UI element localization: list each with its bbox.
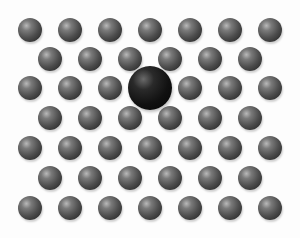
lattice-atom	[178, 18, 202, 42]
lattice-atom	[218, 18, 242, 42]
lattice-atom	[78, 47, 102, 71]
lattice-atom	[98, 76, 122, 100]
lattice-atom	[58, 196, 82, 220]
lattice-atom	[238, 47, 262, 71]
lattice-atom	[118, 47, 142, 71]
lattice-atom	[238, 166, 262, 190]
crystal-lattice-illustration	[0, 0, 300, 238]
lattice-atom	[138, 18, 162, 42]
lattice-atom	[18, 76, 42, 100]
lattice-atom	[218, 196, 242, 220]
lattice-atom	[98, 18, 122, 42]
lattice-atom	[218, 136, 242, 160]
lattice-atom	[238, 106, 262, 130]
lattice-atom	[98, 196, 122, 220]
lattice-atom	[198, 166, 222, 190]
defect-atom	[128, 66, 172, 110]
lattice-atom	[198, 47, 222, 71]
lattice-atom	[218, 76, 242, 100]
lattice-atom	[98, 136, 122, 160]
lattice-atom	[158, 106, 182, 130]
lattice-atom	[118, 106, 142, 130]
lattice-atom	[58, 18, 82, 42]
lattice-atom	[178, 196, 202, 220]
lattice-atom	[38, 47, 62, 71]
lattice-atom	[178, 76, 202, 100]
lattice-atom	[178, 136, 202, 160]
lattice-atom	[258, 76, 282, 100]
lattice-atom	[38, 166, 62, 190]
lattice-atom	[58, 136, 82, 160]
lattice-atom	[198, 106, 222, 130]
lattice-atom	[18, 136, 42, 160]
lattice-atom	[78, 166, 102, 190]
lattice-atom	[258, 196, 282, 220]
lattice-atom	[18, 196, 42, 220]
lattice-atom	[158, 166, 182, 190]
lattice-atom	[258, 18, 282, 42]
lattice-atom	[138, 136, 162, 160]
lattice-atom	[78, 106, 102, 130]
lattice-atom	[18, 18, 42, 42]
lattice-atom	[58, 76, 82, 100]
lattice-atom	[158, 47, 182, 71]
lattice-atom	[118, 166, 142, 190]
lattice-atom	[258, 136, 282, 160]
lattice-atom	[138, 196, 162, 220]
lattice-atom	[38, 106, 62, 130]
